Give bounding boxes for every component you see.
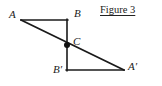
geometry-figure: A B C B′ A′ Figure 3 <box>0 0 162 86</box>
vertex-label-a-prime: A′ <box>128 61 137 72</box>
vertex-label-b-prime: B′ <box>53 64 62 75</box>
figure-caption: Figure 3 <box>100 4 135 15</box>
figure-line-drawing <box>0 0 162 86</box>
point-c-dot <box>64 42 70 48</box>
vertex-label-a: A <box>9 9 16 20</box>
vertex-label-c: C <box>73 36 80 47</box>
vertex-label-b: B <box>74 8 81 19</box>
